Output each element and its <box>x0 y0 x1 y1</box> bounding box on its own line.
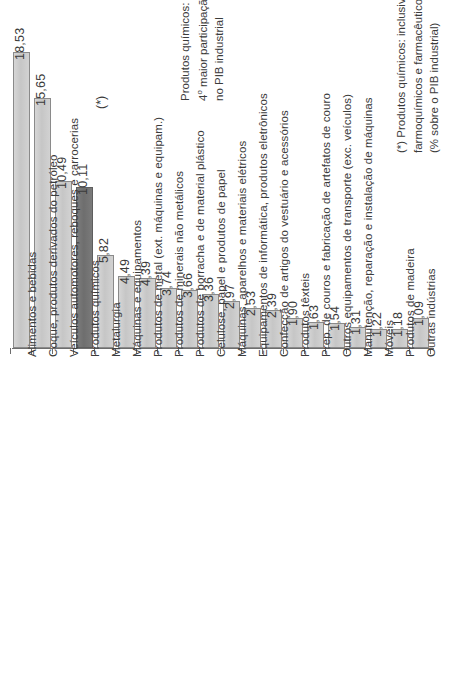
bar-value-label: 15,65 <box>34 74 48 106</box>
category-label: Máquinas, aparelhos e materiais elétrico… <box>236 141 248 357</box>
category-label: Produtos de madeira <box>404 248 416 357</box>
category-label: Produtos de minerais não metálicos <box>173 171 185 357</box>
footnote-line-2: farmoquímicos e farmacêuticos. <box>410 0 427 153</box>
annotation-produtos-quimicos: Produtos químicos: 4o maior participação… <box>177 0 228 101</box>
annotation-line-1: Produtos químicos: <box>177 0 194 101</box>
category-label: Alimentos e bebidas <box>26 252 38 357</box>
category-label: Metalurgia <box>110 302 122 357</box>
annotation-line-2: 4o maior participação <box>194 0 212 101</box>
footnote-line-3: (% sobre o PIB industrial) <box>426 0 443 153</box>
footnote-line-1: (*) Produtos químicos: inclusive <box>393 0 410 153</box>
bar-chart: 18,5315,6510,4910,115,824,494,393,743,66… <box>0 0 454 691</box>
annotation-line-3: no PIB industrial <box>211 0 228 101</box>
category-label: Outras indústrias <box>425 268 437 357</box>
bar-value-label: 4,49 <box>118 259 132 284</box>
category-label: Celulose, papel e produtos de papel <box>215 169 227 357</box>
category-label: Produtos de borracha e de material plást… <box>194 130 206 357</box>
category-label: Prep. de couros e fabricação de artefato… <box>320 93 332 357</box>
x-axis-tick <box>10 348 11 354</box>
category-label: Outros equipamentos de transporte (exc. … <box>341 94 353 357</box>
category-label: Manutenção, reparação e instalação de má… <box>362 97 374 357</box>
category-label: Produtos de metal (ext. máquinas e equip… <box>152 117 164 357</box>
category-label: Móveis <box>383 320 395 357</box>
category-label: Veículos automotores, reboques e carroce… <box>68 118 80 357</box>
category-label: Máquinas e equipamentos <box>131 220 143 357</box>
category-label: Produtos têxteis <box>299 273 311 357</box>
highlight-asterisk-marker: (*) <box>94 96 108 109</box>
bar-value-label: 18,53 <box>13 28 27 60</box>
category-label: Coque, produtos derivados do petróleo <box>47 154 59 357</box>
category-label: Equipamentos de informática, produtos el… <box>257 93 269 357</box>
footnote-produtos-quimicos: (*) Produtos químicos: inclusive farmoqu… <box>393 0 443 153</box>
category-label: Confecção de artigos do vestuário e aces… <box>278 110 290 357</box>
category-label: Produtos químicos <box>89 260 101 357</box>
